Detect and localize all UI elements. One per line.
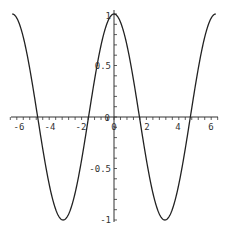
x-tick-label: 0: [111, 122, 116, 132]
x-tick-label: 2: [144, 122, 149, 132]
cosine-plot: -6 -4 -2 0 2 4 6 0 1 0.5 -0.5 -1: [0, 0, 228, 235]
y-tick-label: -1: [100, 215, 111, 225]
x-tick-label: 4: [175, 122, 180, 132]
y-tick-label: 1: [106, 11, 111, 21]
x-tick-label: -2: [76, 122, 87, 132]
origin-label: 0: [105, 113, 110, 123]
x-tick-label: 6: [208, 122, 213, 132]
x-tick-label: -4: [45, 122, 56, 132]
x-tick-label: -6: [14, 122, 25, 132]
y-tick-label: -0.5: [89, 164, 111, 174]
axes: [10, 10, 218, 222]
y-ticks: [114, 14, 117, 220]
y-tick-label: 0.5: [95, 61, 111, 71]
